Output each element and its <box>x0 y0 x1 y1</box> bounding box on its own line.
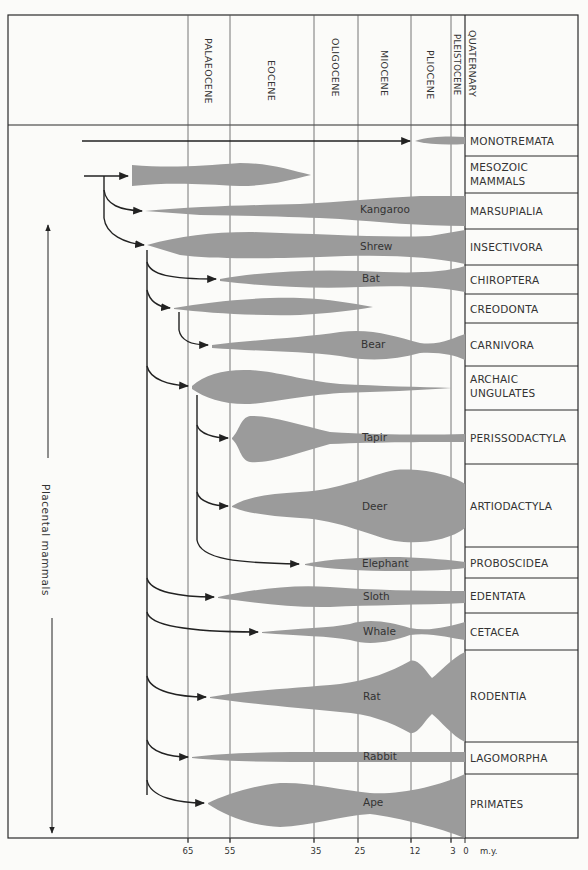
spindle-artiodactyla <box>232 470 465 543</box>
order-line: MESOZOIC <box>470 160 528 174</box>
spindle-marsupialia <box>145 196 465 226</box>
order-line: MAMMALS <box>470 174 528 188</box>
order-edentata: EDENTATA <box>470 589 526 603</box>
order-rodentia: RODENTIA <box>470 689 526 703</box>
epoch-oligocene-label: OLIGOCENE <box>330 38 340 97</box>
order-creodonta: CREODONTA <box>470 302 538 316</box>
order-cetacea: CETACEA <box>470 625 519 639</box>
genus-tapir: Tapir <box>362 431 387 443</box>
axis-tick-25: 25 <box>355 846 366 856</box>
epoch-quaternary-label: QUATERNARY <box>467 30 477 97</box>
genus-deer: Deer <box>362 500 387 512</box>
spindle-rodentia <box>210 652 465 742</box>
spindle-chiroptera <box>220 266 465 292</box>
spindle-primates <box>208 774 465 838</box>
genus-whale: Whale <box>363 625 396 637</box>
order-line: ARCHAIC <box>470 372 535 386</box>
order-line: UNGULATES <box>470 386 535 400</box>
epoch-pliocene-label: PLIOCENE <box>425 50 435 99</box>
axis-tick-12: 12 <box>410 846 421 856</box>
order-archaic-ungulates: ARCHAIC UNGULATES <box>470 372 535 400</box>
genus-elephant: Elephant <box>362 557 409 569</box>
axis-tick-3: 3 <box>450 846 455 856</box>
spindle-carnivora <box>212 331 465 360</box>
axis-tick-35: 35 <box>311 846 322 856</box>
spindle-mesozoic <box>132 163 311 186</box>
genus-ape: Ape <box>363 796 383 808</box>
epoch-pleistocene-label: PLEISTOCENE <box>452 34 461 95</box>
epoch-miocene-label: MIOCENE <box>379 50 389 96</box>
order-insectivora: INSECTIVORA <box>470 240 543 254</box>
spindle-perissodactyla <box>232 416 465 462</box>
lineage-spindles <box>132 136 465 838</box>
spindle-archaic-ungulates <box>192 370 452 404</box>
order-artiodactyla: ARTIODACTYLA <box>470 499 552 513</box>
axis-tick-65: 65 <box>183 846 194 856</box>
order-proboscidea: PROBOSCIDEA <box>470 556 548 570</box>
genus-rat: Rat <box>363 690 381 702</box>
genus-sloth: Sloth <box>363 590 390 602</box>
epoch-eocene-label: EOCENE <box>266 60 276 101</box>
axis-tick-55: 55 <box>225 846 236 856</box>
order-monotremata: MONOTREMATA <box>470 134 554 148</box>
order-primates: PRIMATES <box>470 797 523 811</box>
order-chiroptera: CHIROPTERA <box>470 273 539 287</box>
genus-bat: Bat <box>362 272 380 284</box>
genus-bear: Bear <box>361 338 385 350</box>
order-marsupialia: MARSUPIALIA <box>470 204 543 218</box>
order-mesozoic-mammals: MESOZOIC MAMMALS <box>470 160 528 188</box>
spindle-monotremata <box>415 136 465 144</box>
axis-unit-label: m.y. <box>480 846 498 856</box>
genus-kangaroo: Kangaroo <box>360 203 410 215</box>
spindle-lagomorpha <box>192 752 465 762</box>
spindle-edentata <box>218 586 465 607</box>
spindle-insectivora <box>147 230 465 264</box>
genus-shrew: Shrew <box>360 240 392 252</box>
order-perissodactyla: PERISSODACTYLA <box>470 431 566 445</box>
epoch-palaeocene-label: PALAEOCENE <box>203 38 213 104</box>
spindle-creodonta <box>174 298 373 315</box>
axis-tick-0: 0 <box>463 846 468 856</box>
order-carnivora: CARNIVORA <box>470 338 534 352</box>
placental-mammals-label: Placental mammals <box>40 484 52 596</box>
genus-rabbit: Rabbit <box>363 750 397 762</box>
order-lagomorpha: LAGOMORPHA <box>470 751 548 765</box>
mammal-evolution-diagram: PALAEOCENE EOCENE OLIGOCENE MIOCENE PLIO… <box>0 0 588 870</box>
